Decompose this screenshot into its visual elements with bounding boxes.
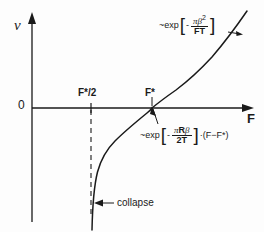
annotation-bottom-bracket-close: ] (194, 127, 199, 142)
y-axis-label: v (14, 18, 21, 33)
annotation-top-exponent: 2 (202, 14, 206, 21)
tick-label-f-star: F* (145, 88, 155, 98)
annotation-top-sign: - (186, 21, 189, 30)
annotation-bottom-bracket-open: [ (161, 127, 166, 142)
annotation-top-denominator: FT (192, 27, 207, 36)
leader-arrowhead-top-annotation (236, 31, 243, 36)
annotation-bottom-denominator: 2T (175, 136, 190, 145)
annotation-bottom-beta: β (185, 125, 189, 135)
annotation-collapse: collapse (117, 198, 154, 208)
annotation-bottom-sign: - (167, 131, 170, 140)
leader-arrowhead-collapse (94, 200, 103, 207)
annotation-top-bracket-open: [ (180, 17, 185, 32)
annotation-top-prefix: ~exp (159, 21, 179, 30)
annotation-top-bracket-close: ] (210, 17, 215, 32)
figure-velocity-vs-force: v 0 F F*/2 F* collapse ~exp [ - πβ2 FT ]… (0, 0, 264, 232)
annotation-bottom-tail: ·(F−F*) (200, 131, 229, 140)
annotation-top-numerator: πβ2 (191, 14, 208, 27)
annotation-bottom-fraction: πRβ 2T (172, 126, 192, 146)
velocity-curve (92, 11, 247, 230)
x-axis-label: F (247, 112, 255, 125)
annotation-bottom-prefix: ~exp (140, 131, 160, 140)
annotation-high-field-asymptote: ~exp [ - πβ2 FT ] (159, 14, 215, 37)
y-axis-arrowhead (28, 12, 36, 24)
annotation-top-fraction: πβ2 FT (191, 14, 208, 37)
tick-label-f-star-half: F*/2 (78, 88, 96, 98)
origin-label: 0 (18, 99, 25, 111)
annotation-near-threshold-linear: ~exp [ - πRβ 2T ] ·(F−F*) (140, 126, 229, 146)
